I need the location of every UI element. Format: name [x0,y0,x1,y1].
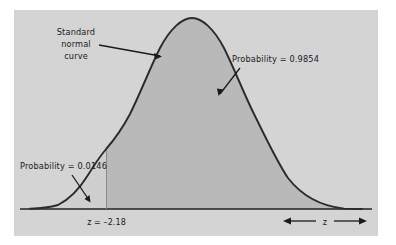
z-tick-label: z = –2.18 [87,218,126,227]
shaded-region-left-tail [36,149,107,210]
normal-curve-chart-panel: Standard normal curve Probability = 0.98… [14,10,378,236]
curve-label-group: Standard normal curve [57,27,95,61]
curve-label-line1: Standard [57,27,95,37]
shaded-region-right [107,18,367,209]
curve-label-arrow [99,45,162,60]
probability-left-label: Probability = 0.0146 [20,161,107,171]
probability-right-label: Probability = 0.9854 [232,54,319,64]
curve-label-line2: normal [61,39,91,49]
curve-label-line3: curve [64,51,88,61]
axis-label-arrow-group: z [283,218,367,227]
figure-root: Standard normal curve Probability = 0.98… [0,0,396,245]
normal-curve-plot: Standard normal curve Probability = 0.98… [14,10,378,236]
axis-label-z: z [323,218,327,227]
